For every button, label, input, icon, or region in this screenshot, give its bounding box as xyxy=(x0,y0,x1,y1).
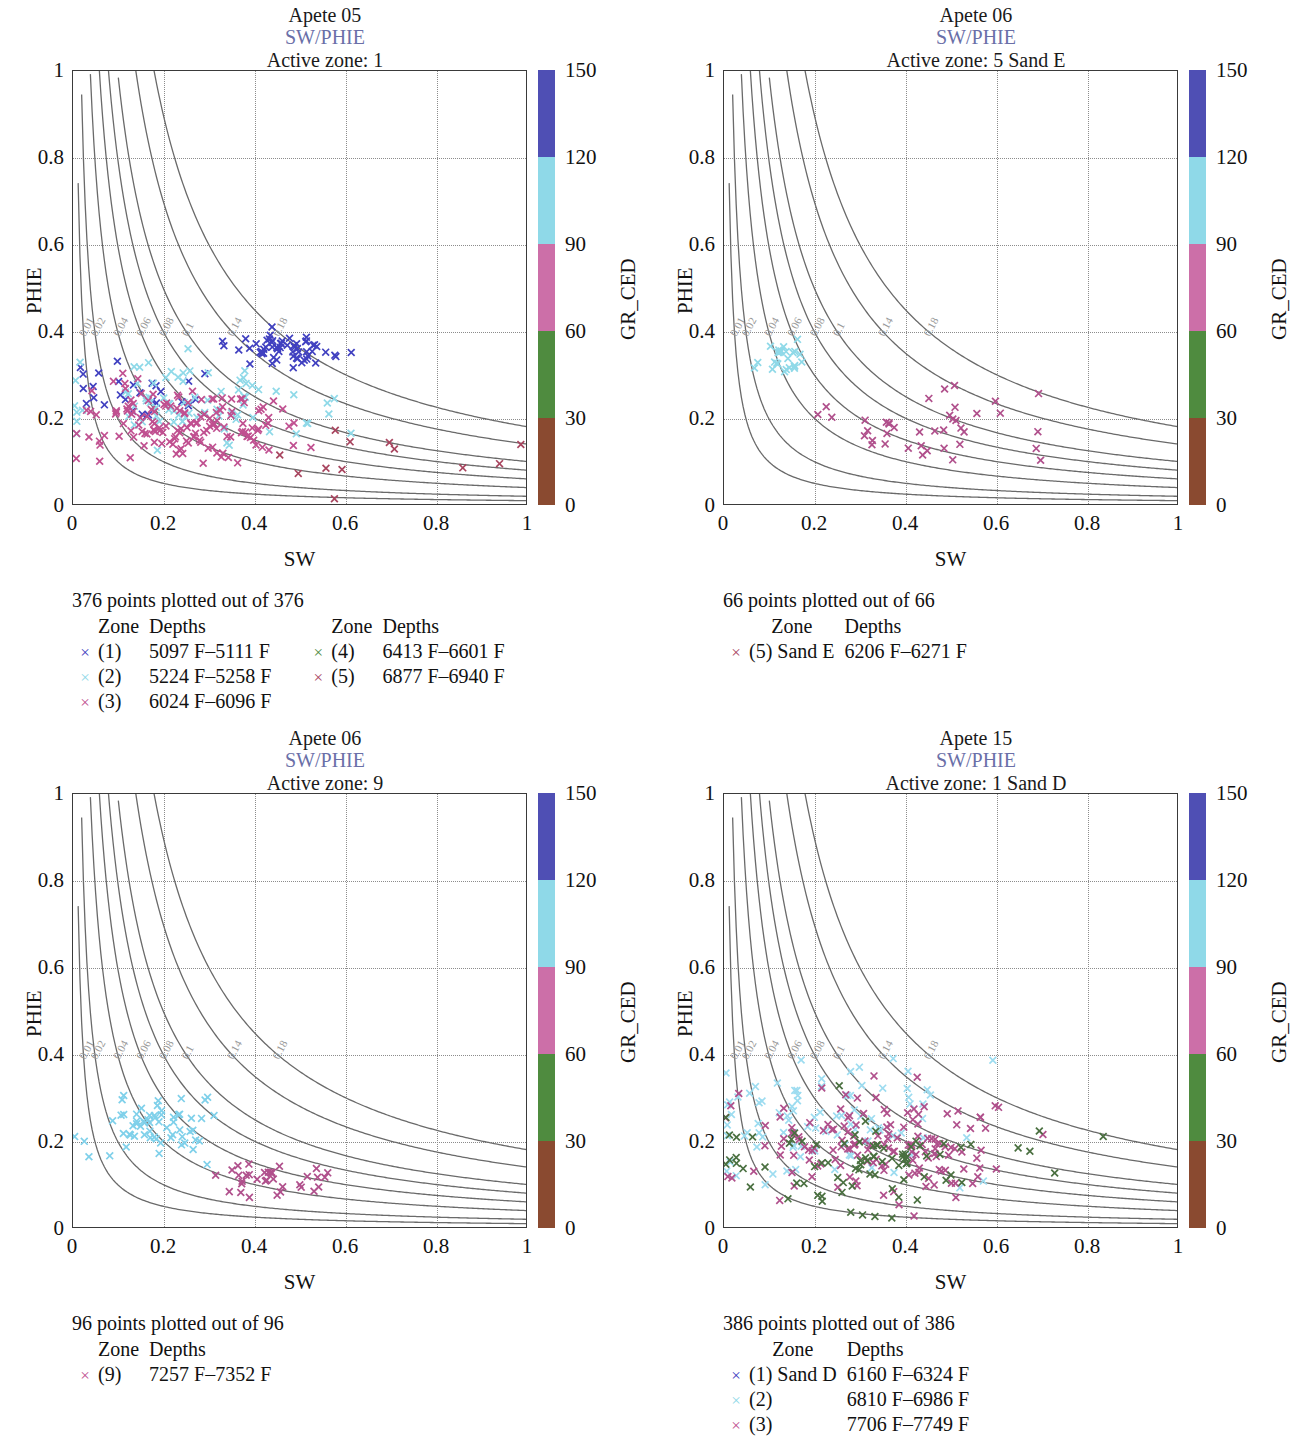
bvw-curve-label: 0.14 xyxy=(224,315,244,338)
scatter-point xyxy=(80,371,87,378)
colorbar-tick-label: 60 xyxy=(1216,319,1237,344)
bvw-curve xyxy=(118,801,527,1185)
scatter-point xyxy=(881,1106,888,1113)
legend-marker-icon: × xyxy=(72,1362,98,1387)
scatter-point xyxy=(247,361,254,368)
scatter-point xyxy=(339,466,346,473)
x-axis-tick-label: 0.8 xyxy=(423,1234,449,1259)
scatter-point xyxy=(127,454,134,461)
scatter-point xyxy=(963,1134,970,1141)
scatter-point xyxy=(911,1213,918,1220)
scatter-point xyxy=(324,400,331,407)
bvw-curve-label: 0.18 xyxy=(921,1038,941,1061)
legend-depth-range: 6413 F–6601 F xyxy=(382,639,504,664)
scatter-point xyxy=(836,1082,843,1089)
scatter-point xyxy=(871,1072,878,1079)
y-axis-tick-label: 1 xyxy=(677,58,715,83)
scatter-point xyxy=(733,1134,740,1141)
scatter-point xyxy=(780,1129,787,1136)
scatter-point xyxy=(830,1147,837,1154)
scatter-point xyxy=(123,1144,130,1151)
scatter-point xyxy=(83,400,90,407)
scatter-point xyxy=(818,1075,825,1082)
y-axis-tick-label: 0 xyxy=(677,493,715,518)
y-axis-label: PHIE xyxy=(22,990,47,1037)
scatter-point xyxy=(241,367,248,374)
scatter-point xyxy=(973,1155,980,1162)
scatter-point xyxy=(109,1117,116,1124)
legend-column-gap xyxy=(271,664,305,689)
scatter-point xyxy=(96,458,103,465)
legend-header-depths: Depths xyxy=(382,614,504,639)
legend-table: ZoneDepthsZoneDepths×(1)5097 F–5111 F×(4… xyxy=(72,614,505,714)
scatter-point xyxy=(870,1153,877,1160)
scatter-point xyxy=(101,432,108,439)
colorbar xyxy=(1189,70,1206,505)
scatter-point xyxy=(175,374,182,381)
legend-header-row: ZoneDepthsZoneDepths xyxy=(72,614,505,639)
y-axis-tick-label: 0.8 xyxy=(677,868,715,893)
legend-header-row: ZoneDepths xyxy=(723,614,967,639)
colorbar-label: GR_CED xyxy=(1267,981,1292,1063)
scatter-point xyxy=(880,1192,887,1199)
scatter-point xyxy=(960,1166,967,1173)
legend-marker-spacer xyxy=(723,1337,749,1362)
scatter-point xyxy=(266,447,273,454)
colorbar-tick-label: 30 xyxy=(565,406,586,431)
scatter-point xyxy=(135,422,142,429)
legend-column-gap xyxy=(271,614,305,639)
panel-legend: 96 points plotted out of 96ZoneDepths×(9… xyxy=(72,1312,284,1387)
scatter-point xyxy=(224,439,231,446)
colorbar xyxy=(538,793,555,1228)
scatter-point xyxy=(879,1158,886,1165)
scatter-point xyxy=(179,418,186,425)
scatter-point xyxy=(179,1133,186,1140)
legend-marker-icon xyxy=(305,689,331,714)
scatter-point xyxy=(229,1167,236,1174)
scatter-point xyxy=(119,370,126,377)
x-axis-tick-label: 0.6 xyxy=(983,511,1009,536)
scatter-point xyxy=(235,386,242,393)
scatter-point xyxy=(797,1153,804,1160)
legend-depth-range xyxy=(382,689,504,714)
colorbar-band xyxy=(538,157,555,244)
scatter-point xyxy=(769,1171,776,1178)
scatter-point xyxy=(952,404,959,411)
colorbar-band xyxy=(1189,418,1206,505)
scatter-point xyxy=(77,359,84,366)
colorbar-band xyxy=(538,967,555,1054)
scatter-point xyxy=(837,1162,844,1169)
scatter-point xyxy=(73,430,80,437)
scatter-point xyxy=(242,335,249,342)
scatter-point xyxy=(951,382,958,389)
y-axis-tick-label: 1 xyxy=(26,781,64,806)
scatter-point-group xyxy=(71,1092,331,1201)
scatter-point xyxy=(809,1173,816,1180)
points-plotted-text: 66 points plotted out of 66 xyxy=(723,589,967,612)
scatter-point xyxy=(895,1194,902,1201)
scatter-point xyxy=(245,1161,252,1168)
scatter-point xyxy=(459,464,466,471)
scatter-point xyxy=(914,1074,921,1081)
bvw-curve-label: 0.08 xyxy=(156,315,176,338)
points-plotted-text: 386 points plotted out of 386 xyxy=(723,1312,969,1335)
scatter-point xyxy=(101,401,108,408)
colorbar-tick-label: 60 xyxy=(565,1042,586,1067)
y-axis-tick-label: 0.2 xyxy=(677,406,715,431)
scatter-point xyxy=(240,420,247,427)
legend-zone-label xyxy=(331,689,382,714)
scatter-point xyxy=(198,396,205,403)
scatter-point xyxy=(858,1082,865,1089)
bvw-curve-label: 0.18 xyxy=(921,315,941,338)
scatter-point xyxy=(169,441,176,448)
legend-row: ×(9)7257 F–7352 F xyxy=(72,1362,271,1387)
y-axis-tick-label: 0.8 xyxy=(677,145,715,170)
scatter-point xyxy=(391,446,398,453)
scatter-point xyxy=(825,1159,832,1166)
legend-depth-range: 5097 F–5111 F xyxy=(149,639,271,664)
legend-marker-icon: × xyxy=(723,1412,749,1437)
scatter-point xyxy=(253,340,260,347)
scatter-point xyxy=(762,1181,769,1188)
legend-header-zone: Zone xyxy=(331,614,382,639)
scatter-point xyxy=(81,1138,88,1145)
